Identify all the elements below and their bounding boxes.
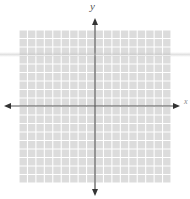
y-axis-label: y — [90, 1, 95, 12]
coordinate-plane: y x — [0, 0, 190, 199]
coordinate-grid-svg — [0, 0, 190, 199]
x-axis-label: x — [184, 98, 188, 106]
x-axis-arrow-left-icon — [4, 103, 11, 109]
y-axis-arrow-up-icon — [92, 18, 98, 25]
y-axis-arrow-down-icon — [92, 189, 98, 196]
x-axis-arrow-right-icon — [173, 103, 180, 109]
